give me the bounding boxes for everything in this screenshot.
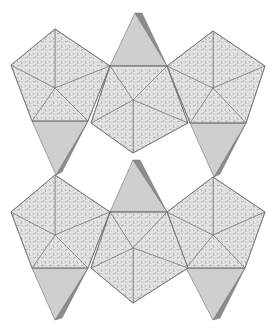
tetrahedron-front-face — [32, 268, 88, 320]
tetrahedron-top-center — [110, 13, 167, 66]
tetrahedron-lower-right — [186, 268, 245, 320]
tetrahedron-upper-right — [190, 123, 246, 177]
octahedron-upper-left — [11, 29, 110, 121]
tetrahedron-lower-left — [32, 268, 88, 320]
tetrahedron-upper-left — [32, 121, 88, 175]
octahedron-lower-left — [11, 175, 110, 268]
tetrahedron-front-face — [190, 123, 246, 177]
tetrahedron-front-face — [110, 13, 167, 66]
tetrahedron-front-face — [32, 121, 88, 175]
polyhedral-structure-diagram — [0, 0, 272, 328]
tetrahedron-front-face — [186, 268, 245, 320]
tetrahedron-middle-center — [110, 160, 167, 212]
diagram-canvas — [0, 0, 272, 328]
